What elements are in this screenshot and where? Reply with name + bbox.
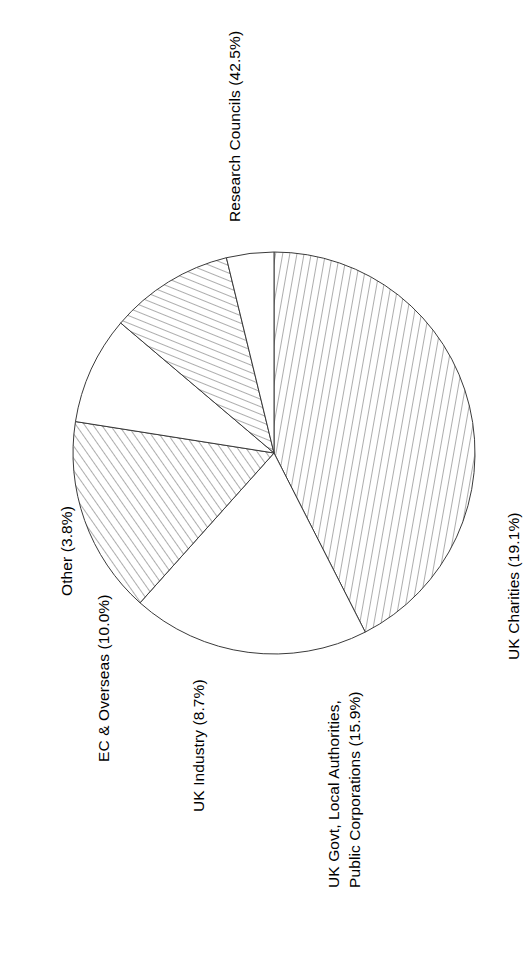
pie-chart-figure: Research Councils (42.5%) UK Charities (… <box>0 0 525 954</box>
slice-label-uk-charities: UK Charities (19.1%) <box>505 512 523 660</box>
slice-label-uk-industry: UK Industry (8.7%) <box>190 679 208 812</box>
pie-chart-svg <box>0 0 525 954</box>
slice-label-research-councils: Research Councils (42.5%) <box>226 31 244 222</box>
pie-slices <box>73 252 475 654</box>
slice-label-other: Other (3.8%) <box>58 506 76 596</box>
slice-label-ec-overseas: EC & Overseas (10.0%) <box>95 595 113 763</box>
slice-label-uk-govt-line2: Public Corporations (15.9%) <box>346 691 364 888</box>
slice-label-uk-govt-line1: UK Govt, Local Authorities, <box>325 700 343 888</box>
